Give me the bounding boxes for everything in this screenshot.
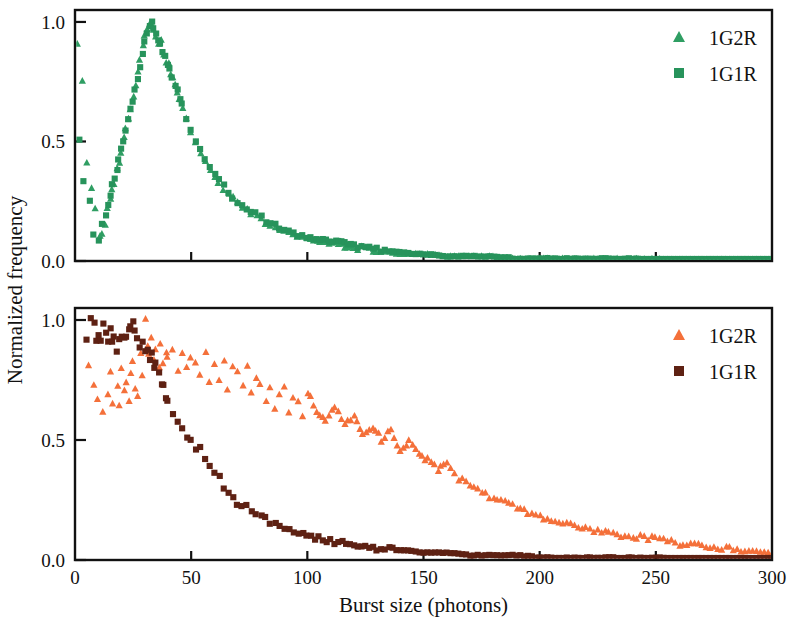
data-point-square [259, 213, 265, 219]
plot-frame-top [75, 10, 772, 261]
data-point-square [164, 398, 170, 404]
data-point-square [166, 65, 172, 71]
data-point-square [216, 176, 222, 182]
series-top-1G1R [76, 19, 775, 263]
data-point-square [108, 193, 114, 199]
data-point-triangle [104, 391, 111, 398]
legend-triangle-icon [673, 31, 685, 42]
data-point-triangle [109, 400, 116, 407]
data-point-square [197, 444, 203, 450]
data-point-triangle [114, 382, 121, 389]
data-point-triangle [92, 205, 99, 212]
data-point-triangle [281, 383, 288, 390]
data-point-triangle [132, 385, 139, 392]
figure-container: 0.00.51.01G2R1G1R0501001502002503000.00.… [0, 0, 794, 625]
legend-marker-bottom-1G1R [674, 366, 684, 376]
data-point-square [221, 181, 227, 187]
data-point-triangle [221, 357, 228, 364]
data-point-square [207, 164, 213, 170]
data-point-triangle [127, 369, 134, 376]
data-point-triangle [256, 380, 263, 387]
data-point-square [202, 156, 208, 162]
burst-size-histogram-figure: 0.00.51.01G2R1G1R0501001502002503000.00.… [0, 0, 794, 625]
data-point-square [144, 30, 150, 36]
legend-marker-top-1G2R [673, 31, 685, 42]
x-tick-label-300: 300 [758, 567, 787, 588]
data-point-square [122, 128, 128, 134]
legend-label-top-1G1R: 1G1R [709, 63, 757, 85]
data-point-square [132, 327, 138, 333]
legend-square-icon [674, 366, 684, 376]
data-point-triangle [310, 402, 317, 409]
data-point-square [147, 357, 153, 363]
data-point-square [156, 369, 162, 375]
data-point-triangle [299, 412, 306, 419]
data-point-square [130, 99, 136, 105]
data-point-square [105, 202, 111, 208]
data-point-square [149, 19, 155, 25]
data-point-square [114, 167, 120, 173]
data-point-square [149, 349, 155, 355]
legend-bottom: 1G2R1G1R [673, 325, 757, 383]
data-point-triangle [136, 56, 143, 63]
data-point-square [83, 337, 89, 343]
data-point-triangle [253, 374, 260, 381]
x-tick-label-50: 50 [182, 567, 201, 588]
data-point-square [175, 86, 181, 92]
data-point-square [150, 25, 156, 31]
data-point-square [120, 138, 126, 144]
y-tick-label-top-1: 1.0 [41, 12, 65, 33]
data-point-triangle [83, 159, 90, 166]
y-tick-label-bottom-0: 0.0 [41, 550, 65, 571]
data-point-triangle [196, 371, 203, 378]
data-point-square [114, 349, 120, 355]
data-point-triangle [271, 405, 278, 412]
data-point-triangle [394, 442, 401, 449]
data-point-triangle [142, 315, 149, 322]
legend-marker-top-1G1R [674, 68, 684, 78]
data-point-triangle [390, 434, 397, 441]
data-point-square [141, 38, 147, 44]
data-point-triangle [90, 381, 97, 388]
data-point-triangle [239, 382, 246, 389]
data-point-triangle [295, 398, 302, 405]
data-point-square [160, 382, 166, 388]
data-point-square [262, 514, 268, 520]
data-point-square [96, 332, 102, 338]
data-point-triangle [169, 346, 176, 353]
data-point-square [131, 86, 137, 92]
data-point-triangle [148, 334, 155, 341]
data-point-triangle [405, 436, 412, 443]
legend-label-top-1G2R: 1G2R [709, 27, 757, 49]
data-point-square [183, 116, 189, 122]
y-tick-label-top-0: 0.0 [41, 251, 65, 272]
points-bottom [83, 315, 776, 561]
data-point-triangle [179, 349, 186, 356]
data-point-square [103, 212, 109, 218]
data-point-square [230, 494, 236, 500]
data-point-triangle [123, 378, 130, 385]
y-tick-label-top-0.5: 0.5 [41, 131, 65, 152]
data-point-triangle [118, 364, 125, 371]
data-point-triangle [211, 360, 218, 367]
data-point-square [188, 127, 194, 133]
data-point-triangle [285, 409, 292, 416]
data-point-triangle [159, 360, 166, 367]
data-point-square [99, 221, 105, 227]
data-point-triangle [121, 387, 128, 394]
x-tick-label-250: 250 [642, 567, 671, 588]
data-point-triangle [187, 354, 194, 361]
x-tick-label-200: 200 [525, 567, 554, 588]
data-point-square [125, 116, 131, 122]
legend-top: 1G2R1G1R [673, 27, 757, 85]
data-point-square [243, 502, 249, 508]
data-point-square [188, 437, 194, 443]
y-axis-title: Normalized frequency [3, 195, 27, 384]
data-point-square [225, 190, 231, 196]
data-point-triangle [206, 378, 213, 385]
data-point-triangle [248, 389, 255, 396]
data-point-square [137, 344, 143, 350]
data-point-square [135, 76, 141, 82]
data-point-triangle [381, 434, 388, 441]
data-point-triangle [130, 93, 137, 100]
